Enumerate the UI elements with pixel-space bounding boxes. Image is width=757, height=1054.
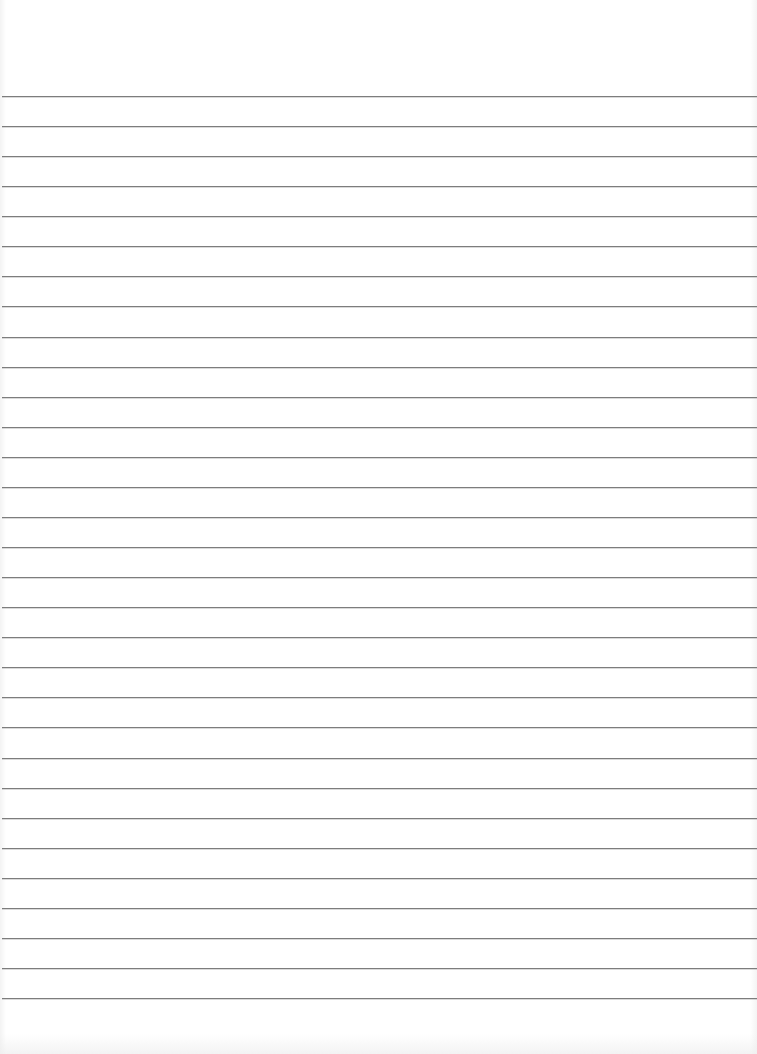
- paper-edge-shadow: [0, 1034, 757, 1054]
- ruled-line: [2, 337, 757, 338]
- ruled-line: [2, 517, 757, 518]
- ruled-line: [2, 367, 757, 368]
- ruled-line: [2, 848, 757, 849]
- ruled-line: [2, 667, 757, 668]
- ruled-line: [2, 607, 757, 608]
- ruled-line: [2, 186, 757, 187]
- ruled-line: [2, 126, 757, 127]
- ruled-line: [2, 457, 757, 458]
- ruled-line: [2, 577, 757, 578]
- ruled-line: [2, 998, 757, 999]
- ruled-line: [2, 216, 757, 217]
- ruled-line: [2, 156, 757, 157]
- ruled-line: [2, 758, 757, 759]
- lined-paper-sheet: [0, 0, 757, 1054]
- ruled-line: [2, 938, 757, 939]
- ruled-line: [2, 397, 757, 398]
- ruled-line: [2, 306, 757, 307]
- ruled-line: [2, 878, 757, 879]
- ruled-line: [2, 818, 757, 819]
- ruled-line: [2, 697, 757, 698]
- ruled-line: [2, 727, 757, 728]
- ruled-line: [2, 427, 757, 428]
- ruled-line: [2, 968, 757, 969]
- ruled-line: [2, 487, 757, 488]
- ruled-line: [2, 96, 757, 97]
- ruled-line: [2, 276, 757, 277]
- ruled-line: [2, 788, 757, 789]
- ruled-line: [2, 246, 757, 247]
- ruled-line: [2, 908, 757, 909]
- ruled-line: [2, 637, 757, 638]
- ruled-line: [2, 547, 757, 548]
